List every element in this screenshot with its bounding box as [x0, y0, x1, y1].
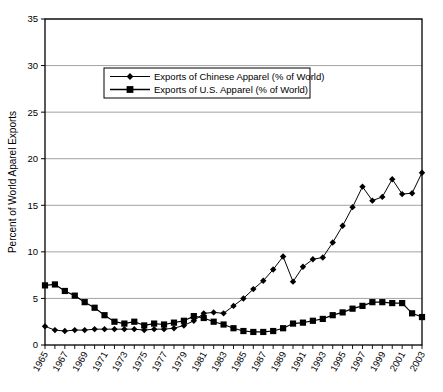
data-point: [389, 176, 395, 182]
legend-marker-square-icon: [127, 86, 134, 93]
data-point: [191, 313, 197, 319]
data-point: [141, 322, 147, 328]
y-tick-label: 0: [33, 339, 38, 350]
data-point: [42, 323, 48, 329]
data-point: [52, 327, 58, 333]
data-point: [359, 183, 365, 189]
data-point: [62, 328, 68, 334]
y-tick-label: 15: [27, 200, 38, 211]
data-point: [42, 282, 48, 288]
data-point: [320, 316, 326, 322]
x-tick-label: 1985: [229, 350, 249, 374]
line-chart: 0510152025303519651967196919711973197519…: [0, 0, 443, 392]
x-tick-label: 2003: [407, 350, 427, 374]
x-tick-label: 1975: [129, 350, 149, 374]
data-point: [91, 326, 97, 332]
data-point: [111, 326, 117, 332]
data-point: [201, 315, 207, 321]
data-point: [389, 300, 395, 306]
x-tick-label: 1987: [248, 350, 268, 374]
x-tick-label: 1981: [189, 350, 209, 374]
data-point: [151, 326, 157, 332]
data-point: [339, 223, 345, 229]
data-point: [409, 190, 415, 196]
x-tick-label: 1999: [367, 350, 387, 374]
y-tick-label: 10: [27, 246, 38, 257]
data-point: [379, 299, 385, 305]
data-point: [171, 320, 177, 326]
data-point: [359, 303, 365, 309]
y-tick-label: 30: [27, 60, 38, 71]
x-axis: 1965196719691971197319751977197919811983…: [30, 345, 427, 373]
legend-label: Exports of U.S. Apparel (% of World): [154, 84, 308, 95]
data-point: [330, 312, 336, 318]
data-point: [419, 314, 425, 320]
data-point: [220, 321, 226, 327]
data-point: [82, 299, 88, 305]
data-point: [101, 326, 107, 332]
data-point: [131, 319, 137, 325]
data-point: [121, 320, 127, 326]
x-tick-label: 1983: [209, 350, 229, 374]
y-tick-label: 35: [27, 13, 38, 24]
x-tick-label: 1965: [30, 350, 50, 374]
data-point: [121, 326, 127, 332]
data-point: [280, 325, 286, 331]
data-point: [92, 305, 98, 311]
data-point: [131, 326, 137, 332]
data-point: [340, 309, 346, 315]
x-tick-label: 1989: [268, 350, 288, 374]
y-tick-label: 25: [27, 107, 38, 118]
data-point: [52, 281, 58, 287]
data-point: [399, 300, 405, 306]
data-point: [151, 320, 157, 326]
data-point: [101, 312, 107, 318]
x-tick-label: 1993: [308, 350, 328, 374]
y-axis-title: Percent of World Aparel Exports: [7, 111, 18, 253]
data-point: [62, 288, 68, 294]
data-point: [290, 320, 296, 326]
data-point: [290, 278, 296, 284]
data-point: [409, 310, 415, 316]
data-point: [419, 169, 425, 175]
x-tick-label: 1977: [149, 350, 169, 374]
data-point: [111, 319, 117, 325]
data-point: [81, 327, 87, 333]
x-tick-label: 1997: [348, 350, 368, 374]
data-point: [240, 328, 246, 334]
data-point: [310, 318, 316, 324]
x-tick-label: 1967: [50, 350, 70, 374]
data-point: [379, 194, 385, 200]
legend: Exports of Chinese Apparel (% of World)E…: [104, 68, 324, 98]
data-point: [181, 318, 187, 324]
legend-label: Exports of Chinese Apparel (% of World): [154, 71, 324, 82]
data-point: [330, 239, 336, 245]
x-tick-label: 1969: [70, 350, 90, 374]
data-point: [171, 325, 177, 331]
data-point: [369, 299, 375, 305]
data-point: [230, 325, 236, 331]
data-point: [210, 309, 216, 315]
data-point: [161, 321, 167, 327]
x-tick-label: 1979: [169, 350, 189, 374]
data-point: [320, 254, 326, 260]
data-point: [72, 327, 78, 333]
data-point: [270, 328, 276, 334]
y-tick-label: 20: [27, 153, 38, 164]
chart-container: 0510152025303519651967196919711973197519…: [0, 0, 443, 392]
data-point: [260, 329, 266, 335]
x-tick-label: 2001: [387, 350, 407, 374]
data-point: [399, 191, 405, 197]
data-point: [72, 293, 78, 299]
x-tick-label: 1971: [90, 350, 110, 374]
x-tick-label: 1991: [288, 350, 308, 374]
x-tick-label: 1995: [328, 350, 348, 374]
data-point: [250, 329, 256, 335]
x-tick-label: 1973: [110, 350, 130, 374]
data-point: [300, 320, 306, 326]
data-point: [369, 197, 375, 203]
y-tick-label: 5: [33, 293, 38, 304]
data-point: [349, 306, 355, 312]
data-point: [211, 319, 217, 325]
